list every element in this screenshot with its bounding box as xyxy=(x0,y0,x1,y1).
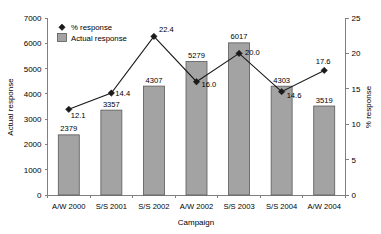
bar-series-actual-response xyxy=(58,43,334,195)
legend-label-percent-response: % response xyxy=(71,23,112,32)
point-value-label: 22.4 xyxy=(159,25,174,34)
left-tick-label: 0 xyxy=(37,191,42,200)
bar-value-label: 4303 xyxy=(273,76,290,85)
category-label: A/W 2004 xyxy=(308,202,341,211)
right-tick-label: 25 xyxy=(352,14,361,23)
legend-label-actual-response: Actual response xyxy=(71,34,127,43)
bar xyxy=(229,43,250,195)
diamond-marker-icon xyxy=(59,24,65,30)
chart-legend: % response Actual response xyxy=(58,23,127,43)
y-axis-title: Actual response xyxy=(6,78,15,136)
category-label: S/S 2001 xyxy=(96,202,127,211)
bar-value-label: 6017 xyxy=(231,32,248,41)
x-axis-title: Campaign xyxy=(178,218,214,227)
diamond-marker-icon xyxy=(321,67,327,73)
right-tick-label: 20 xyxy=(352,49,361,58)
left-tick-label: 6000 xyxy=(24,39,42,48)
point-value-label: 17.6 xyxy=(316,57,331,66)
bar-value-label: 3357 xyxy=(103,100,120,109)
point-value-label: 16.0 xyxy=(202,80,217,89)
bar xyxy=(314,106,335,195)
left-tick-label: 5000 xyxy=(24,65,42,74)
point-value-label: 14.4 xyxy=(115,89,130,98)
right-tick-label: 15 xyxy=(352,85,361,94)
y2-axis-title: % response xyxy=(364,85,373,128)
category-labels: A/W 2000S/S 2001S/S 2002A/W 2002S/S 2003… xyxy=(52,202,341,211)
square-swatch-icon xyxy=(58,34,67,42)
left-tick-label: 1000 xyxy=(24,166,42,175)
bar xyxy=(101,110,122,195)
left-tick-label: 7000 xyxy=(24,14,42,23)
bar-value-label: 4307 xyxy=(145,76,162,85)
right-axis-ticks: 0510152025 xyxy=(346,14,361,200)
right-tick-label: 5 xyxy=(352,156,357,165)
right-tick-label: 0 xyxy=(352,191,357,200)
category-label: S/S 2002 xyxy=(138,202,169,211)
bar-value-label: 5279 xyxy=(188,51,205,60)
bar xyxy=(143,86,164,195)
point-value-label: 14.6 xyxy=(287,91,302,100)
bar-value-label: 2379 xyxy=(60,124,77,133)
bar-value-label: 3519 xyxy=(316,96,333,105)
left-tick-label: 4000 xyxy=(24,90,42,99)
chart-container: 01000200030004000500060007000 0510152025… xyxy=(0,0,381,234)
point-value-label: 20.0 xyxy=(245,48,260,57)
point-value-label: 12.1 xyxy=(71,111,86,120)
bar xyxy=(271,86,292,195)
left-axis-ticks: 01000200030004000500060007000 xyxy=(24,14,48,200)
category-label: A/W 2000 xyxy=(52,202,85,211)
response-by-campaign-chart: 01000200030004000500060007000 0510152025… xyxy=(0,0,381,234)
category-label: A/W 2002 xyxy=(180,202,213,211)
left-tick-label: 3000 xyxy=(24,115,42,124)
category-label: S/S 2003 xyxy=(223,202,254,211)
left-tick-label: 2000 xyxy=(24,140,42,149)
right-tick-label: 10 xyxy=(352,120,361,129)
bar xyxy=(58,135,79,195)
category-label: S/S 2004 xyxy=(266,202,297,211)
